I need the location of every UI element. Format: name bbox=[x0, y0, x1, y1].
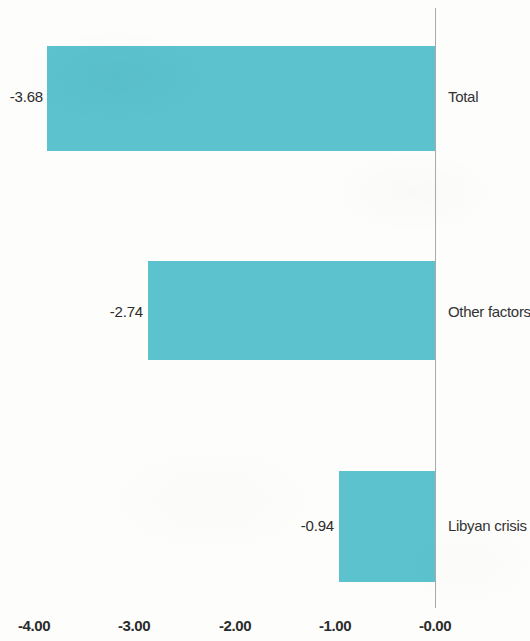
bar-total[interactable] bbox=[47, 46, 435, 151]
category-label-total: Total bbox=[448, 88, 478, 105]
category-label-libyan-crisis: Libyan crisis bbox=[448, 517, 527, 534]
value-label-other-factors: -2.74 bbox=[99, 303, 143, 320]
xtick-label--2-00: -2.00 bbox=[200, 617, 270, 634]
category-label-other-factors: Other factors bbox=[448, 303, 530, 320]
xtick-label--0-00: -0.00 bbox=[400, 617, 470, 634]
chart-page: -3.68 -2.74 -0.94 Total Other factors Li… bbox=[0, 0, 530, 641]
bar-other-factors[interactable] bbox=[148, 261, 435, 360]
bar-libyan-crisis[interactable] bbox=[339, 471, 435, 582]
xtick-mark--0-00 bbox=[435, 601, 436, 608]
zero-axis-line bbox=[435, 8, 436, 605]
xtick-label--1-00: -1.00 bbox=[300, 617, 370, 634]
bar-chart-plot-area: -3.68 -2.74 -0.94 Total Other factors Li… bbox=[0, 0, 530, 641]
value-label-libyan-crisis: -0.94 bbox=[290, 517, 334, 534]
xtick-label--4-00: -4.00 bbox=[0, 617, 69, 634]
xtick-label--3-00: -3.00 bbox=[99, 617, 169, 634]
value-label-total: -3.68 bbox=[0, 88, 43, 105]
